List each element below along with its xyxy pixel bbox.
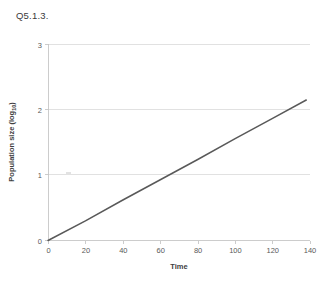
- x-tick-label-120: 120: [267, 246, 280, 255]
- chart-canvas: 3 2 1 0 0 20 40 60 80 100 120 140 Time: [0, 26, 330, 283]
- y-axis-title-tail: ): [7, 102, 16, 105]
- x-tick-label-80: 80: [194, 246, 202, 255]
- y-tick-label-3: 3: [38, 41, 42, 50]
- x-axis-ticks: 0 20 40 60 80 100 120 140: [46, 241, 316, 256]
- x-tick-label-40: 40: [119, 246, 127, 255]
- x-tick-label-100: 100: [229, 246, 242, 255]
- x-tick-label-140: 140: [304, 246, 317, 255]
- series-line-population: [48, 100, 306, 240]
- stray-gridline-marker: [66, 172, 71, 175]
- y-axis-title: Population size (log10): [7, 102, 17, 182]
- y-tick-label-1: 1: [38, 171, 42, 180]
- x-tick-label-0: 0: [46, 246, 50, 255]
- axes: [48, 44, 310, 241]
- x-tick-label-60: 60: [157, 246, 165, 255]
- y-axis-title-base: Population size (log: [7, 110, 16, 181]
- page-title: Q5.1.3.: [16, 10, 49, 21]
- line-chart: 3 2 1 0 0 20 40 60 80 100 120 140 Time: [0, 26, 330, 283]
- y-axis-ticks: 3 2 1 0: [38, 41, 48, 246]
- y-tick-label-0: 0: [38, 237, 42, 246]
- gridlines: [48, 45, 310, 175]
- x-tick-label-20: 20: [82, 246, 90, 255]
- x-axis-title: Time: [170, 262, 187, 271]
- y-axis-title-group: Population size (log10): [7, 102, 17, 182]
- y-tick-label-2: 2: [38, 106, 42, 115]
